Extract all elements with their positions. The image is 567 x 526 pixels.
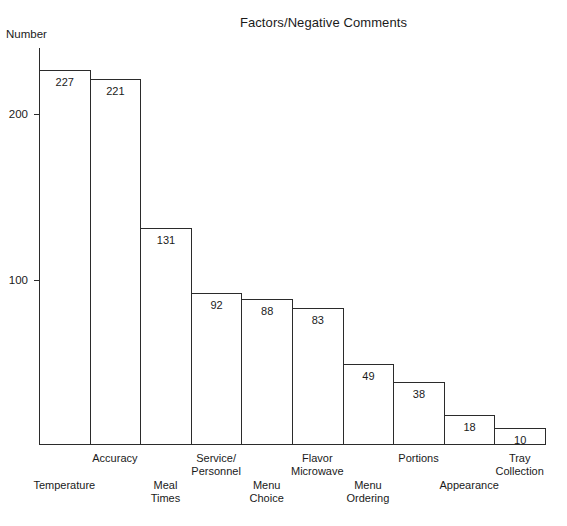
bar-value-label: 18	[445, 422, 495, 433]
y-axis-label: Number	[6, 28, 47, 40]
bar-value-label: 49	[344, 371, 394, 382]
bar-value-label: 131	[141, 235, 191, 246]
bar[interactable]: 131	[140, 228, 192, 445]
bar[interactable]: 38	[393, 382, 445, 445]
bar[interactable]: 49	[343, 364, 395, 445]
x-axis-label: Menu Ordering	[321, 479, 416, 505]
chart-title: Factors/Negative Comments	[0, 15, 567, 30]
bar-value-label: 88	[242, 306, 292, 317]
bar-value-label: 10	[495, 435, 545, 446]
bar[interactable]: 221	[90, 79, 142, 445]
x-axis-label: Appearance	[422, 479, 517, 492]
y-tick-label: 200	[9, 108, 28, 120]
bar[interactable]: 83	[292, 308, 344, 445]
x-axis-label: Temperature	[17, 479, 112, 492]
bar-value-label: 92	[192, 300, 242, 311]
pareto-bar-chart: Factors/Negative Comments Number 100200 …	[0, 0, 567, 526]
bar-value-label: 83	[293, 315, 343, 326]
x-axis-label: Service/ Personnel	[169, 452, 264, 478]
bar[interactable]: 10	[494, 428, 546, 445]
bar[interactable]: 92	[191, 293, 243, 445]
bar[interactable]: 227	[39, 70, 91, 445]
x-axis-label: Accuracy	[68, 452, 163, 465]
x-axis-label: Tray Collection	[472, 452, 567, 478]
bar-value-label: 221	[91, 86, 141, 97]
bar-value-label: 38	[394, 389, 444, 400]
x-axis-label: Portions	[371, 452, 466, 465]
x-axis-label: Meal Times	[118, 479, 213, 505]
bar-value-label: 227	[40, 77, 90, 88]
plot-area: 100200 22722113192888349381810	[39, 48, 545, 445]
bar[interactable]: 88	[241, 299, 293, 445]
bar[interactable]: 18	[444, 415, 496, 445]
x-axis-label: Menu Choice	[219, 479, 314, 505]
x-axis-label: Flavor Microwave	[270, 452, 365, 478]
y-tick-label: 100	[9, 274, 28, 286]
